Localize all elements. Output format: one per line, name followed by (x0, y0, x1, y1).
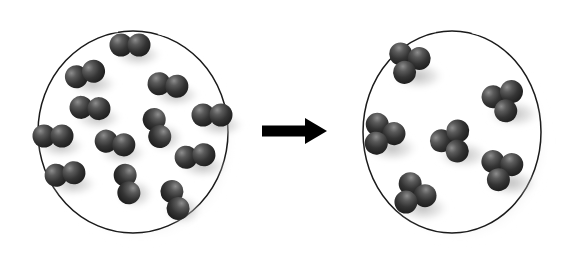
arrow-head (305, 118, 327, 144)
left-container-rim-gap-a (104, 31, 118, 32)
reaction-arrow (262, 118, 327, 144)
right-container-rim-gap-a (424, 31, 436, 32)
diagram-canvas (0, 0, 579, 262)
reaction-diagram: Molecular reaction diagram: diatomic mol… (0, 0, 579, 262)
right-panel (352, 31, 551, 244)
arrow-shaft (262, 126, 309, 137)
left-panel (33, 31, 247, 244)
